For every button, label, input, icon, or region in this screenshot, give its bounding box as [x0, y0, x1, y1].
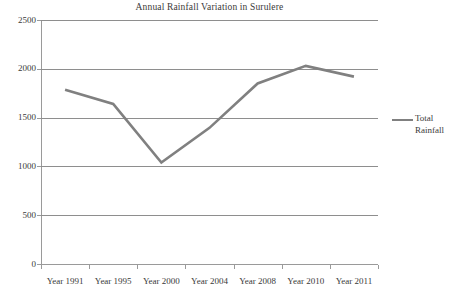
x-tick-mark-3 [185, 265, 186, 269]
y-tick-label-2500: 2500 [0, 16, 36, 25]
x-tick-label-0: Year 1991 [41, 275, 89, 289]
x-tick-label-1: Year 1995 [89, 275, 137, 289]
x-tick-label-5: Year 2010 [282, 275, 330, 289]
x-tick-label-2: Year 2000 [137, 275, 185, 289]
y-tick-label-0: 0 [0, 260, 36, 269]
legend-line-swatch-icon [392, 116, 413, 125]
x-tick-mark-5 [282, 265, 283, 269]
y-tick-label-1500: 1500 [0, 113, 36, 122]
chart-title: Annual Rainfall Variation in Surulere [41, 1, 378, 13]
series-line-total-rainfall [41, 20, 378, 264]
x-axis-labels: Year 1991Year 1995Year 2000Year 2004Year… [41, 275, 378, 289]
x-tick-label-6: Year 2011 [330, 275, 378, 289]
y-tick-label-2000: 2000 [0, 64, 36, 73]
plot-area [41, 20, 378, 264]
legend-item-total-rainfall: Total Rainfall [392, 112, 466, 136]
gridline-0 [41, 264, 378, 265]
x-tick-mark-4 [234, 265, 235, 269]
x-tick-mark-0 [41, 265, 42, 269]
x-tick-mark-2 [137, 265, 138, 269]
x-tick-label-3: Year 2004 [185, 275, 233, 289]
y-tick-label-1000: 1000 [0, 162, 36, 171]
x-tick-mark-7 [378, 265, 379, 269]
legend-item-label: Total Rainfall [415, 112, 463, 136]
chart-figure: Annual Rainfall Variation in Surulere 05… [0, 0, 468, 294]
chart-legend: Total Rainfall [392, 112, 466, 136]
x-tick-label-4: Year 2008 [234, 275, 282, 289]
x-tick-mark-1 [89, 265, 90, 269]
x-tick-mark-6 [330, 265, 331, 269]
y-tick-label-500: 500 [0, 211, 36, 220]
